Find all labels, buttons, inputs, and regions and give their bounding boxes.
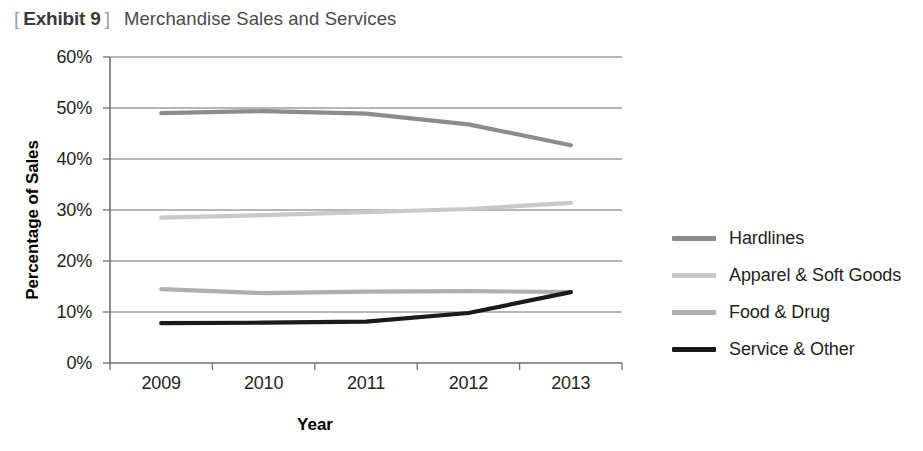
- legend-item-service-other[interactable]: Service & Other: [672, 331, 922, 368]
- legend-item-apparel-soft-goods[interactable]: Apparel & Soft Goods: [672, 257, 922, 294]
- legend-label: Food & Drug: [729, 302, 830, 323]
- exhibit-header: [ Exhibit 9 ] Merchandise Sales and Serv…: [14, 8, 396, 30]
- bracket-close: ]: [105, 9, 110, 28]
- x-tick-label: 2011: [321, 373, 411, 394]
- legend-item-hardlines[interactable]: Hardlines: [672, 220, 922, 257]
- legend-label: Apparel & Soft Goods: [729, 265, 901, 286]
- legend-swatch-icon: [672, 273, 716, 278]
- legend-label: Service & Other: [729, 339, 855, 360]
- legend-swatch-icon: [672, 347, 716, 352]
- legend-swatch-icon: [672, 236, 716, 241]
- bracket-open: [: [14, 9, 19, 28]
- line-chart: 0%10%20%30%40%50%60% 2009201020112012201…: [0, 40, 923, 451]
- x-tick-label: 2012: [423, 373, 513, 394]
- exhibit-number-label: Exhibit 9: [23, 8, 100, 30]
- x-tick-label: 2010: [219, 373, 309, 394]
- x-tick-label: 2013: [526, 373, 616, 394]
- chart-legend: HardlinesApparel & Soft GoodsFood & Drug…: [672, 220, 922, 368]
- legend-label: Hardlines: [729, 228, 804, 249]
- x-axis-title: Year: [225, 415, 405, 435]
- legend-swatch-icon: [672, 310, 716, 315]
- legend-item-food-drug[interactable]: Food & Drug: [672, 294, 922, 331]
- y-axis-title: Percentage of Sales: [23, 120, 43, 320]
- x-tick-label: 2009: [116, 373, 206, 394]
- exhibit-title: Merchandise Sales and Services: [124, 8, 396, 30]
